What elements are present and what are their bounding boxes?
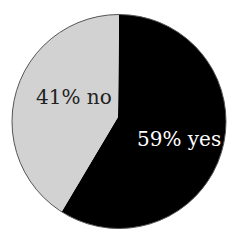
pie-chart: 41% no 59% yes [0, 0, 238, 243]
slice-label-no: 41% no [36, 85, 112, 109]
slice-label-yes: 59% yes [137, 127, 221, 151]
pie-slices [12, 15, 226, 229]
